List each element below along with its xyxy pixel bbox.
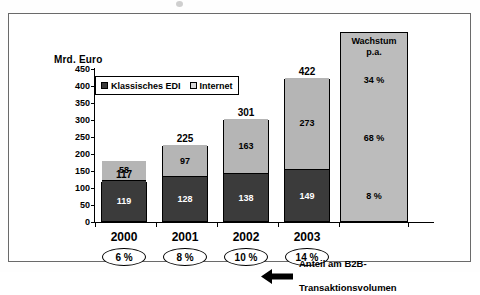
share-badge-2001: 8 %	[163, 248, 207, 266]
legend-item-edi: Klassisches EDI	[101, 81, 181, 91]
bar-segment-internet: 163	[224, 119, 268, 174]
y-tick-mark	[91, 188, 95, 189]
x-tick-mark	[278, 222, 279, 227]
growth-value-edi: 8 %	[341, 191, 407, 201]
legend-label-edi: Klassisches EDI	[111, 81, 181, 91]
y-tick-label: 400	[75, 81, 90, 91]
bar-segment-edi: 128	[163, 177, 207, 221]
growth-value-internet: 34 %	[341, 75, 407, 85]
y-tick-label: 450	[75, 64, 90, 74]
y-tick-label: 350	[75, 98, 90, 108]
scan-artifact-speck	[176, 1, 183, 7]
growth-column-header: Wachstum p.a.	[341, 36, 407, 58]
y-tick-label: 0	[85, 217, 90, 227]
growth-column: Wachstum p.a. 34 % 68 % 8 %	[340, 32, 408, 222]
x-tick-mark	[95, 222, 96, 227]
y-tick-mark	[91, 120, 95, 121]
share-annotation-line1: Anteil am B2B-	[299, 258, 397, 270]
x-tick-mark	[156, 222, 157, 227]
y-tick-mark	[91, 69, 95, 70]
y-tick-label: 250	[75, 132, 90, 142]
growth-header-line2: p.a.	[341, 47, 407, 58]
y-tick-label: 50	[80, 200, 90, 210]
y-tick-mark	[91, 137, 95, 138]
y-tick-label: 150	[75, 166, 90, 176]
bar-2001: 97128	[162, 146, 208, 223]
bar-segment-edi: 149	[285, 170, 329, 221]
bar-total-label: 117	[101, 169, 147, 180]
bar-total-label: 301	[223, 107, 269, 118]
legend-item-internet: Internet	[190, 81, 233, 91]
y-tick-mark	[91, 205, 95, 206]
share-annotation: Anteil am B2B- Transaktionsvolumen	[261, 246, 397, 295]
bar-segment-internet: 97	[163, 145, 207, 178]
x-tick-mark	[339, 222, 340, 227]
y-tick-label: 200	[75, 149, 90, 159]
bar-segment-internet: 273	[285, 78, 329, 171]
y-tick-mark	[91, 103, 95, 104]
legend-swatch-internet	[190, 82, 197, 89]
bar-2002: 163138	[223, 120, 269, 222]
bar-segment-edi: 138	[224, 174, 268, 221]
chart-legend: Klassisches EDI Internet	[95, 76, 239, 95]
left-arrow-icon	[261, 268, 293, 285]
y-tick-mark	[91, 171, 95, 172]
share-annotation-line2: Transaktionsvolumen	[299, 282, 397, 294]
x-axis-year-2003: 2003	[277, 230, 337, 244]
bar-total-label: 225	[162, 133, 208, 144]
bar-total-label: 422	[284, 66, 330, 77]
share-badge-2000: 6 %	[102, 248, 146, 266]
growth-header-line1: Wachstum	[341, 36, 407, 47]
y-tick-label: 100	[75, 183, 90, 193]
legend-swatch-edi	[101, 82, 108, 89]
y-tick-mark	[91, 154, 95, 155]
chart-frame: Mrd. Euro 450400350300250200150100500 58…	[8, 13, 471, 262]
bar-segment-edi: 119	[102, 181, 146, 221]
x-axis-year-2002: 2002	[216, 230, 276, 244]
bar-2003: 273149	[284, 79, 330, 222]
share-annotation-text: Anteil am B2B- Transaktionsvolumen	[299, 246, 397, 295]
x-tick-mark	[408, 222, 409, 227]
x-axis-year-2001: 2001	[155, 230, 215, 244]
x-tick-mark	[217, 222, 218, 227]
x-axis-year-2000: 2000	[94, 230, 154, 244]
x-axis-line	[94, 222, 434, 223]
legend-label-internet: Internet	[200, 81, 233, 91]
y-tick-label: 300	[75, 115, 90, 125]
bar-2000: 58119	[101, 182, 147, 222]
growth-value-total: 68 %	[341, 133, 407, 143]
